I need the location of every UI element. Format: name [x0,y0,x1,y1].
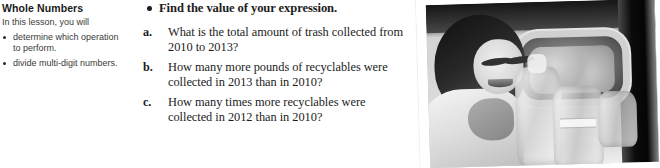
question-text-c: How many times more recyclables were col… [168,95,412,125]
list-item: divide multi-digit numbers. [2,58,120,69]
textbook-page: Whole Numbers In this lesson, you will d… [0,0,660,168]
question-marker-b: b. [143,60,165,75]
objective-label: determine which operation to perform. [13,32,119,53]
person-scarf [467,97,514,141]
recycling-photo [426,0,659,168]
plastic-bottle [598,91,638,147]
list-item: b. How many more pounds of recyclables w… [130,60,412,90]
objectives-list: determine which operation to perform. di… [2,32,120,69]
lesson-intro-text: In this lesson, you will [2,17,120,28]
bullet-dot-icon [3,36,6,39]
question-text-b: How many more pounds of recyclables were… [168,60,412,90]
lead-instruction: Find the value of your expression. [130,1,412,16]
lesson-objectives-sidebar: Whole Numbers In this lesson, you will d… [2,2,120,166]
question-marker-c: c. [143,95,165,110]
bullet-dot-icon [3,62,6,65]
bullet-dot-icon [147,6,152,11]
list-item: determine which operation to perform. [2,32,120,53]
bottle-label [559,118,596,129]
question-text-a: What is the total amount of trash collec… [168,25,412,55]
lead-instruction-label: Find the value of your expression. [159,1,337,15]
question-column: Find the value of your expression. a. Wh… [130,0,412,168]
questions-list: a. What is the total amount of trash col… [130,25,412,125]
question-marker-a: a. [143,25,165,40]
photo-frame [416,0,660,168]
photo-doorframe-edge [653,0,659,162]
list-item: a. What is the total amount of trash col… [130,25,412,55]
objective-label: divide multi-digit numbers. [13,58,118,68]
list-item: c. How many times more recyclables were … [130,95,412,125]
lesson-title: Whole Numbers [2,2,120,14]
